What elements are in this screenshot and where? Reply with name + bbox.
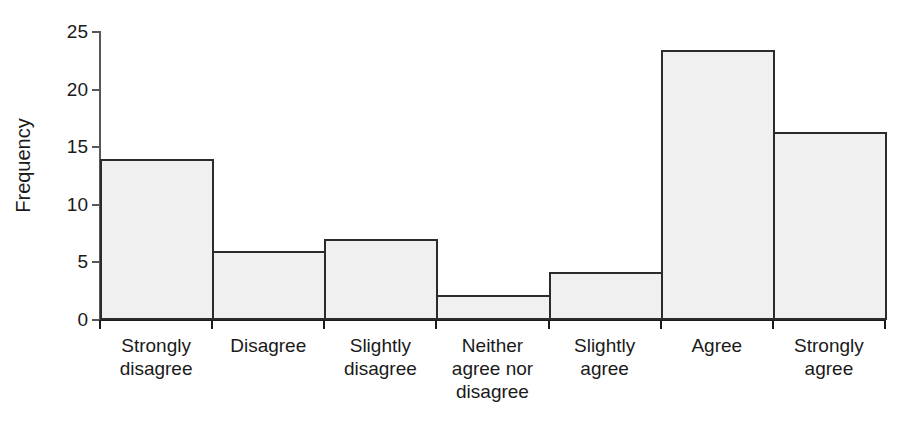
x-axis-category-label-line: agree xyxy=(763,357,895,380)
x-axis-tick xyxy=(211,320,213,329)
bar xyxy=(100,159,214,320)
plot-area xyxy=(100,32,885,320)
bar xyxy=(773,132,887,320)
y-axis-tick xyxy=(92,261,100,263)
x-axis-category-label-line: agree xyxy=(539,357,671,380)
bar xyxy=(661,50,775,320)
x-axis-category-label-line: Strongly xyxy=(763,334,895,357)
bar xyxy=(436,295,550,320)
x-axis-tick xyxy=(99,320,101,329)
y-axis-title-label: Frequency xyxy=(12,118,35,213)
y-axis-tick-label: 15 xyxy=(46,137,88,156)
bar xyxy=(549,272,663,320)
frequency-bar-chart: Frequency 0510152025 StronglydisagreeDis… xyxy=(0,0,900,426)
y-axis-tick-label: 5 xyxy=(46,252,88,271)
y-axis-tick xyxy=(92,89,100,91)
y-axis-tick-labels: 0510152025 xyxy=(40,0,88,426)
x-axis-category-label-line: disagree xyxy=(426,380,558,403)
x-axis-tick xyxy=(884,320,886,329)
y-axis-tick-label: 20 xyxy=(46,80,88,99)
x-axis-tick xyxy=(772,320,774,329)
x-axis-category-label: Stronglyagree xyxy=(763,334,895,380)
y-axis-tick-label: 25 xyxy=(46,22,88,41)
y-axis-tick-label: 0 xyxy=(46,310,88,329)
x-axis-tick xyxy=(660,320,662,329)
x-axis-tick xyxy=(435,320,437,329)
y-axis-tick-label: 10 xyxy=(46,195,88,214)
x-axis-tick xyxy=(323,320,325,329)
bar xyxy=(212,251,326,320)
y-axis-title: Frequency xyxy=(8,0,38,330)
y-axis-tick xyxy=(92,204,100,206)
y-axis-tick xyxy=(92,31,100,33)
x-axis-category-labels: StronglydisagreeDisagreeSlightlydisagree… xyxy=(100,334,886,426)
y-axis-tick xyxy=(92,146,100,148)
x-axis-category-label-line: disagree xyxy=(90,357,222,380)
bar xyxy=(324,239,438,320)
x-axis-tick xyxy=(548,320,550,329)
